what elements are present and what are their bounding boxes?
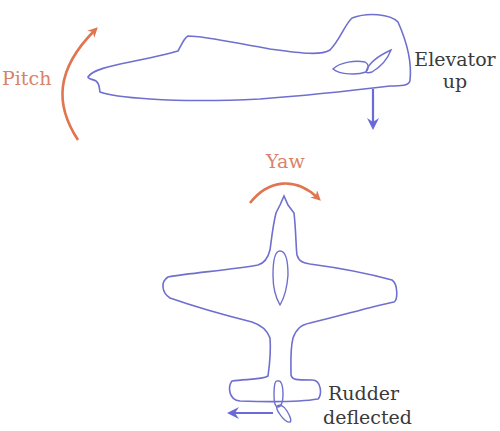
vertical-fin [274, 381, 283, 407]
pitch-rotation-arrow [62, 30, 95, 140]
elevator-surface [366, 50, 391, 73]
rudder-label-line2: deflected [323, 406, 412, 428]
rudder-surface [277, 405, 291, 422]
yaw-rotation-arrow [250, 183, 318, 203]
side-view-airplane [88, 15, 410, 101]
side-fuselage-outline [88, 15, 410, 101]
yaw-label: Yaw [266, 150, 305, 172]
elevator-label-line1: Elevator [412, 48, 498, 70]
pitch-label: Pitch [2, 67, 51, 89]
flight-controls-diagram: Pitch Elevator up Yaw Rudder deflected [0, 0, 500, 431]
canopy [273, 251, 288, 305]
rudder-label-line1: Rudder [328, 382, 399, 404]
horizontal-stabilizer [333, 61, 368, 74]
top-airframe-outline [163, 196, 397, 402]
elevator-label-line2: up [412, 70, 498, 92]
